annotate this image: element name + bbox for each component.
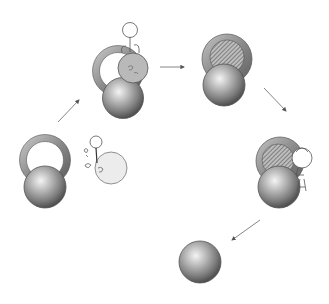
stage-4 bbox=[252, 135, 327, 215]
stage-2 bbox=[90, 5, 150, 120]
stage-5-graphic bbox=[178, 240, 223, 285]
stage-3 bbox=[198, 33, 258, 113]
stage-4-graphic bbox=[252, 135, 327, 215]
stage-1 bbox=[18, 135, 128, 215]
stage-3-graphic bbox=[198, 33, 258, 113]
stage-1-graphic bbox=[18, 135, 128, 215]
arrow-4-to-5 bbox=[228, 218, 263, 243]
arrow-3-to-4 bbox=[262, 86, 292, 116]
figure-caption bbox=[112, 298, 224, 304]
arrow-2-to-3 bbox=[158, 62, 188, 72]
arrow-1-to-2 bbox=[55, 95, 85, 125]
stage-5 bbox=[178, 240, 223, 285]
stage-2-graphic bbox=[90, 5, 150, 120]
